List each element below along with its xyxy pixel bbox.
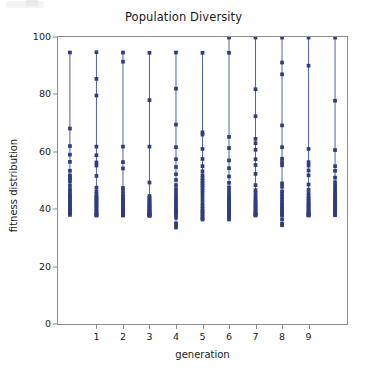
- x-axis-tick-mark: [309, 325, 310, 329]
- x-axis-tick-label: 6: [219, 331, 239, 342]
- data-point: [280, 185, 284, 189]
- data-point: [174, 123, 178, 127]
- data-point: [333, 99, 337, 103]
- x-axis-tick-mark: [229, 325, 230, 329]
- data-point: [254, 37, 258, 39]
- data-point: [121, 214, 125, 218]
- data-point: [174, 191, 178, 195]
- data-point: [148, 51, 152, 55]
- data-point: [201, 195, 205, 199]
- data-point: [201, 198, 205, 202]
- data-point: [254, 141, 258, 145]
- data-point: [201, 218, 205, 222]
- data-point: [227, 51, 231, 55]
- data-point: [280, 124, 284, 128]
- y-axis-tick-label: 0: [21, 319, 51, 329]
- data-point: [174, 178, 178, 182]
- data-point: [227, 166, 231, 170]
- data-point: [227, 181, 231, 185]
- data-point: [174, 226, 178, 230]
- data-point: [333, 180, 337, 184]
- data-point: [254, 183, 258, 187]
- data-point: [174, 157, 178, 161]
- data-point: [148, 214, 152, 218]
- y-axis-tick-label: 60: [21, 147, 51, 157]
- data-point: [227, 135, 231, 139]
- data-point: [148, 98, 152, 102]
- data-point: [333, 176, 337, 180]
- data-point: [148, 145, 152, 149]
- data-point: [68, 153, 72, 157]
- data-point: [174, 172, 178, 176]
- data-point: [95, 50, 99, 54]
- x-axis-tick-mark: [176, 325, 177, 329]
- x-axis-tick-label: 5: [193, 331, 213, 342]
- data-point: [95, 145, 99, 149]
- data-point: [307, 164, 311, 168]
- data-point: [121, 186, 125, 190]
- plot-area: [57, 36, 348, 325]
- data-point: [148, 181, 152, 185]
- x-axis-tick-label: 3: [139, 331, 159, 342]
- data-point: [95, 186, 99, 190]
- data-point: [254, 137, 258, 141]
- data-point: [95, 161, 99, 165]
- data-point: [121, 145, 125, 149]
- data-point: [95, 214, 99, 218]
- data-point: [121, 189, 125, 193]
- data-point: [121, 51, 125, 55]
- data-point: [201, 169, 205, 173]
- data-point: [227, 146, 231, 150]
- x-axis-tick-mark: [96, 325, 97, 329]
- data-point: [333, 148, 337, 152]
- data-point: [307, 183, 311, 187]
- y-axis-tick-label: 80: [21, 90, 51, 100]
- data-point: [280, 223, 284, 227]
- data-point: [280, 157, 284, 161]
- data-point: [174, 165, 178, 169]
- data-point: [280, 37, 284, 39]
- chart-figure: Population Diversity 020406080100 fitnes…: [0, 0, 367, 377]
- data-point: [95, 174, 99, 178]
- data-point: [280, 163, 284, 167]
- data-point: [280, 145, 284, 149]
- data-point: [307, 147, 311, 151]
- x-axis-tick-mark: [256, 325, 257, 329]
- x-axis-tick-label: 9: [299, 331, 319, 342]
- data-point: [307, 37, 311, 39]
- chart-title: Population Diversity: [0, 10, 367, 24]
- data-point: [68, 127, 72, 131]
- data-point: [121, 160, 125, 164]
- data-point: [280, 160, 284, 164]
- data-point: [201, 191, 205, 195]
- data-point: [254, 157, 258, 161]
- data-point: [280, 61, 284, 65]
- data-point: [201, 147, 205, 151]
- data-point: [254, 114, 258, 118]
- data-point: [280, 213, 284, 217]
- data-point: [68, 213, 72, 217]
- data-point: [201, 51, 205, 55]
- x-axis-tick-mark: [203, 325, 204, 329]
- data-point: [333, 37, 337, 39]
- data-point: [280, 217, 284, 221]
- data-point: [68, 160, 72, 164]
- y-axis-label: fitness distribution: [8, 96, 19, 276]
- data-point: [254, 214, 258, 218]
- data-point: [307, 160, 311, 164]
- data-point: [333, 213, 337, 217]
- y-axis-tick-label: 20: [21, 262, 51, 272]
- data-point: [254, 172, 258, 176]
- y-axis-tick-label: 100: [21, 32, 51, 42]
- data-point: [227, 159, 231, 163]
- data-point: [254, 148, 258, 152]
- data-point: [68, 51, 72, 55]
- data-point: [121, 60, 125, 64]
- data-point: [68, 144, 72, 148]
- data-point: [333, 164, 337, 168]
- data-point: [307, 188, 311, 192]
- data-point: [174, 51, 178, 55]
- x-axis-tick-label: 7: [246, 331, 266, 342]
- x-axis-tick-label: 8: [272, 331, 292, 342]
- x-axis-tick-mark: [123, 325, 124, 329]
